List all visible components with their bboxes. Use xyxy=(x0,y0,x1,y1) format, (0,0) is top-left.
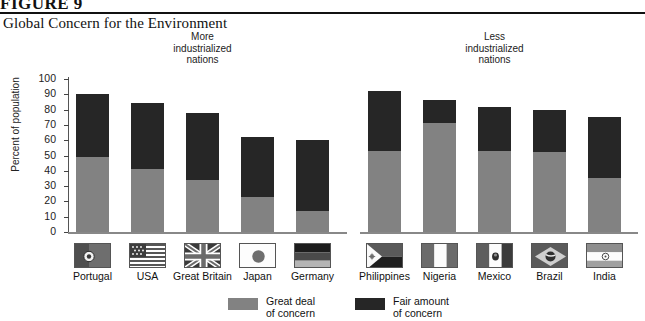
bar-segment-fair-amount xyxy=(296,140,329,210)
flag-great-britain-icon xyxy=(184,243,221,268)
bar-mexico xyxy=(478,107,511,232)
group-header-line: industrialized xyxy=(138,43,268,55)
bar-segment-fair-amount xyxy=(76,94,109,157)
legend-label-great_deal: Great dealof concern xyxy=(266,296,315,319)
y-axis-tick-label: 10 xyxy=(22,211,56,222)
group-header-line: More xyxy=(138,31,268,43)
bar-segment-fair-amount xyxy=(241,137,274,197)
flag-philippines-icon xyxy=(366,243,403,268)
bar-segment-great-deal xyxy=(533,152,566,232)
legend-swatch-fair_amount xyxy=(355,298,385,310)
group-header-line: industrialized xyxy=(430,43,560,55)
bar-segment-fair-amount xyxy=(478,107,511,151)
y-axis-tick-label: 90 xyxy=(22,88,56,99)
bar-philippines xyxy=(368,91,401,232)
bar-segment-great-deal xyxy=(131,169,164,232)
bar-chart: 0102030405060708090100Percent of populat… xyxy=(0,0,645,321)
flag-usa-icon xyxy=(129,243,166,268)
bar-india xyxy=(588,117,621,232)
legend-label-line: Fair amount xyxy=(393,296,449,308)
legend-label-line: of concern xyxy=(266,308,315,320)
flag-portugal-icon xyxy=(74,243,111,268)
y-axis-tick-label: 70 xyxy=(22,119,56,130)
bar-segment-fair-amount xyxy=(368,91,401,151)
bar-segment-fair-amount xyxy=(533,110,566,153)
flag-india-icon xyxy=(586,243,623,268)
x-axis-baseline xyxy=(68,232,347,234)
bar-segment-fair-amount xyxy=(588,117,621,178)
bar-segment-great-deal xyxy=(368,151,401,232)
bar-segment-great-deal xyxy=(296,211,329,232)
flag-germany-icon xyxy=(294,243,331,268)
y-axis-tick-label: 30 xyxy=(22,180,56,191)
bar-brazil xyxy=(533,110,566,232)
bar-segment-great-deal xyxy=(186,180,219,232)
group-header-line: Less xyxy=(430,31,560,43)
y-axis-tick-label: 40 xyxy=(22,165,56,176)
y-axis-tick-label: 100 xyxy=(22,73,56,84)
bar-segment-great-deal xyxy=(478,151,511,232)
flag-mexico-icon xyxy=(476,243,513,268)
y-axis-tick-mark xyxy=(64,140,69,141)
bar-usa xyxy=(131,103,164,232)
bar-germany xyxy=(296,140,329,232)
y-axis-title: Percent of population xyxy=(10,50,21,200)
bar-great-britain xyxy=(186,113,219,232)
y-axis-tick-mark xyxy=(64,217,69,218)
bar-segment-fair-amount xyxy=(131,103,164,169)
y-axis-tick-mark xyxy=(64,110,69,111)
bar-segment-fair-amount xyxy=(186,113,219,180)
bar-japan xyxy=(241,137,274,232)
y-axis-tick-label: 50 xyxy=(22,150,56,161)
y-axis-tick-mark xyxy=(64,156,69,157)
bar-segment-great-deal xyxy=(76,157,109,232)
group-header-line: nations xyxy=(430,54,560,66)
y-axis-tick-mark xyxy=(64,94,69,95)
flag-japan-icon xyxy=(239,243,276,268)
bar-nigeria xyxy=(423,100,456,232)
bar-segment-great-deal xyxy=(423,123,456,232)
bar-segment-great-deal xyxy=(241,197,274,232)
y-axis-tick-label: 20 xyxy=(22,195,56,206)
y-axis-tick-mark xyxy=(64,125,69,126)
y-axis-tick-label: 60 xyxy=(22,134,56,145)
group-header-more-industrialized: Moreindustrializednations xyxy=(138,31,268,66)
flag-nigeria-icon xyxy=(421,243,458,268)
flag-brazil-icon xyxy=(531,243,568,268)
y-axis-tick-mark xyxy=(64,171,69,172)
group-header-less-industrialized: Lessindustrializednations xyxy=(430,31,560,66)
bar-segment-fair-amount xyxy=(423,100,456,123)
y-axis-tick-mark xyxy=(64,201,69,202)
y-axis-tick-label: 80 xyxy=(22,104,56,115)
x-axis-baseline xyxy=(360,232,638,234)
country-label-india: India xyxy=(560,270,645,282)
y-axis-tick-mark xyxy=(64,79,69,80)
y-axis-tick-label: 0 xyxy=(22,226,56,237)
legend-label-line: Great deal xyxy=(266,296,315,308)
y-axis-tick-mark xyxy=(64,186,69,187)
legend-label-fair_amount: Fair amountof concern xyxy=(393,296,449,319)
legend-swatch-great_deal xyxy=(228,298,258,310)
legend-label-line: of concern xyxy=(393,308,449,320)
group-header-line: nations xyxy=(138,54,268,66)
bar-segment-great-deal xyxy=(588,178,621,232)
bar-portugal xyxy=(76,94,109,232)
